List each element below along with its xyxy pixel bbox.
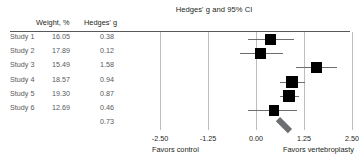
gridline-0neg00 (256, 32, 257, 130)
gridline-neg1-25 (208, 32, 209, 130)
study-weight: 12.69 (36, 103, 70, 112)
study-weight: 15.49 (36, 60, 70, 69)
study-effect-size: 0.87 (84, 89, 114, 98)
chart-title: Hedges' g and 95% CI (0, 5, 356, 14)
table-row: Study 315.491.58 (0, 60, 160, 74)
axis-label-favors-control: Favors control (152, 145, 199, 154)
summary-effect-size: 0.73 (84, 117, 114, 126)
confidence-interval-line (240, 53, 283, 54)
study-marker (283, 90, 295, 102)
confidence-interval-line (280, 96, 299, 97)
study-label: Study 2 (10, 46, 34, 55)
x-tick-label-3: 1.25 (297, 134, 311, 143)
x-tick-label-4: 2.50 (345, 134, 359, 143)
study-effect-size: 0.38 (84, 32, 114, 41)
study-label: Study 4 (10, 75, 34, 84)
confidence-interval-line (296, 67, 337, 68)
table-row: Study 418.570.94 (0, 75, 160, 89)
study-weight: 16.05 (36, 32, 70, 41)
table-row: Study 217.890.12 (0, 46, 160, 60)
study-effect-size: 1.58 (84, 60, 114, 69)
study-label: Study 5 (10, 89, 34, 98)
study-weight: 18.57 (36, 75, 70, 84)
study-marker (265, 34, 276, 45)
study-marker (255, 48, 267, 60)
confidence-interval-line (248, 39, 294, 40)
study-effect-size: 0.12 (84, 46, 114, 55)
summary-diamond (276, 117, 292, 133)
study-marker (269, 105, 279, 115)
confidence-interval-line (248, 110, 297, 111)
gridline-2neg50 (352, 32, 353, 130)
column-header-hedges-g: Hedges' g (84, 18, 117, 27)
study-effect-size: 0.94 (84, 75, 114, 84)
x-tick-label-1: -1.25 (200, 134, 216, 143)
x-tick-label-2: 0.00 (249, 134, 263, 143)
gridline-1neg25 (304, 32, 305, 130)
column-header-weight: Weight, % (36, 18, 70, 27)
table-row: Study 116.050.38 (0, 32, 160, 46)
axis-label-favors-vertebroplasty: Favors vertebroplasty (283, 145, 354, 154)
study-marker (311, 62, 322, 73)
x-tick-label-0: -2.50 (152, 134, 168, 143)
study-label: Study 1 (10, 32, 34, 41)
study-label: Study 6 (10, 103, 34, 112)
confidence-interval-line (280, 82, 305, 83)
study-marker (286, 76, 298, 88)
study-weight: 17.89 (36, 46, 70, 55)
table-row: Study 519.300.87 (0, 89, 160, 103)
study-weight: 19.30 (36, 89, 70, 98)
study-effect-size: 0.46 (84, 103, 114, 112)
table-row-summary: 0.73 (0, 117, 160, 131)
table-row: Study 612.690.46 (0, 103, 160, 117)
study-label: Study 3 (10, 60, 34, 69)
